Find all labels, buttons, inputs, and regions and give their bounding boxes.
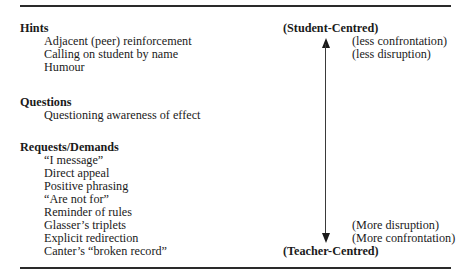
arrow-down-icon [322,233,330,243]
list-item: Canter’s “broken record” [44,245,167,258]
top-rule [20,5,451,7]
list-item: Questioning awareness of effect [44,109,200,122]
arrow-shaft [325,44,326,238]
list-item: Humour [44,61,85,74]
scale-top-note: (less disruption) [352,48,431,61]
bottom-rule [20,267,451,269]
scale-bottom-label: (Teacher-Centred) [283,245,379,258]
